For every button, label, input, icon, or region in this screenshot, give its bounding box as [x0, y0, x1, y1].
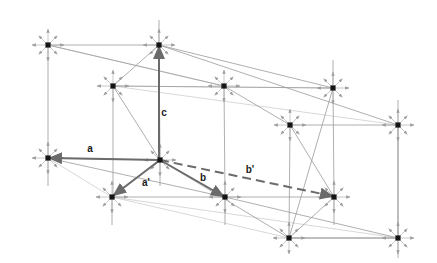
- star-ray: [324, 90, 332, 98]
- label-b: b: [200, 172, 206, 183]
- label-b-prime: b': [246, 164, 255, 175]
- star-ray: [389, 240, 397, 248]
- ray-lowleft-to-botmid: [112, 197, 289, 238]
- star-ray: [400, 116, 408, 124]
- star-ray: [292, 127, 300, 135]
- star-ray: [281, 127, 289, 135]
- edge-diag-mr-lowright: [290, 125, 334, 197]
- star-ray: [50, 36, 58, 44]
- vector-a: [50, 158, 160, 160]
- star-ray: [115, 77, 123, 85]
- edge-vert-upmidright: [224, 86, 225, 197]
- star-ray: [336, 188, 344, 196]
- star-ray: [150, 36, 158, 44]
- star-ray: [103, 188, 111, 196]
- star-ray: [50, 160, 58, 168]
- thin-ray-group: [48, 45, 398, 238]
- star-ray: [216, 199, 224, 207]
- node-star-group: [32, 29, 414, 254]
- star-ray: [336, 199, 344, 207]
- edge-diag-upmr-upr: [224, 86, 290, 125]
- star-ray: [226, 77, 234, 85]
- star-ray: [400, 127, 408, 135]
- vector-b: [160, 160, 223, 196]
- label-c: c: [161, 107, 167, 118]
- star-ray: [215, 77, 223, 85]
- label-a: a: [87, 143, 93, 154]
- star-ray: [150, 47, 158, 55]
- node-lower-right: [331, 194, 336, 199]
- star-ray: [104, 77, 112, 85]
- node-top-left: [45, 42, 50, 47]
- label-a-prime: a': [142, 177, 150, 188]
- star-ray: [227, 188, 235, 196]
- star-ray: [161, 36, 169, 44]
- star-ray: [400, 240, 408, 248]
- edge-diag-lowmid-br: [225, 197, 398, 238]
- node-top-mid: [156, 42, 161, 47]
- node-lower-mid: [222, 194, 227, 199]
- lattice-diagram-svg: aa'bb'c: [0, 0, 437, 263]
- node-upper-mid-right: [221, 83, 226, 88]
- star-ray: [50, 149, 58, 157]
- star-ray: [280, 240, 288, 248]
- node-far-right: [395, 122, 400, 127]
- star-ray: [325, 199, 333, 207]
- star-ray: [104, 88, 112, 96]
- node-upper-right: [330, 85, 335, 90]
- star-ray: [389, 127, 397, 135]
- edge-diag-uml-tm: [113, 45, 159, 86]
- star-ray: [291, 240, 299, 248]
- star-ray: [291, 229, 299, 237]
- star-ray: [335, 79, 343, 87]
- node-left: [45, 155, 50, 160]
- star-ray: [389, 229, 397, 237]
- edge-diag-uml-org: [113, 86, 160, 160]
- ray-upmidleft-to-far: [113, 86, 398, 125]
- star-ray: [39, 36, 47, 44]
- star-ray: [39, 149, 47, 157]
- star-ray: [400, 229, 408, 237]
- star-ray: [335, 90, 343, 98]
- star-ray: [114, 199, 122, 207]
- lattice-node-group: [45, 42, 400, 240]
- lattice-edge-group: [48, 20, 398, 258]
- edge-vert-upright-low: [333, 88, 334, 197]
- node-bottom-right: [395, 235, 400, 240]
- node-mid-right: [287, 122, 292, 127]
- vector-a-prime: [114, 160, 160, 195]
- node-upper-mid-left: [110, 83, 115, 88]
- star-ray: [103, 199, 111, 207]
- star-ray: [39, 47, 47, 55]
- star-ray: [324, 79, 332, 87]
- star-ray: [39, 160, 47, 168]
- edge-diag-tm-upright: [159, 45, 333, 88]
- edge-diag-upright-bm: [289, 88, 333, 238]
- star-ray: [50, 47, 58, 55]
- ray-left-to-lowleft: [48, 158, 112, 197]
- lattice-diagram-figure: aa'bb'c: [0, 0, 437, 263]
- node-origin: [157, 157, 162, 162]
- edge-vert-midright: [289, 125, 290, 238]
- edge-diag-tm-mr: [159, 45, 398, 125]
- star-ray: [292, 116, 300, 124]
- star-ray: [162, 151, 170, 159]
- node-bottom-mid: [286, 235, 291, 240]
- vector-label-group: aa'bb'c: [87, 107, 254, 188]
- node-lower-left: [109, 194, 114, 199]
- star-ray: [215, 88, 223, 96]
- star-ray: [227, 199, 235, 207]
